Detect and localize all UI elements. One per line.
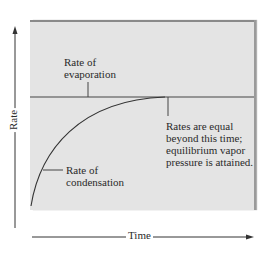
evaporation-label: Rate of evaporation (64, 56, 116, 80)
equilibrium-label-line3: equilibrium vapor (166, 144, 253, 156)
rate-axis-label: Rate (7, 108, 19, 132)
rate-axis-arrow-icon (13, 26, 18, 34)
condensation-rate-curve (31, 97, 165, 206)
equilibrium-label-line2: beyond this time; (166, 132, 253, 144)
condensation-label-line2: condensation (66, 176, 124, 188)
time-axis-arrow-icon (246, 235, 254, 240)
equilibrium-label-line1: Rates are equal (166, 120, 253, 132)
condensation-label-line1: Rate of (66, 164, 124, 176)
time-axis-label: Time (126, 229, 153, 241)
equilibrium-label-line4: pressure is attained. (166, 156, 253, 168)
evaporation-label-line1: Rate of (64, 56, 116, 68)
evaporation-label-line2: evaporation (64, 68, 116, 80)
equilibrium-label: Rates are equal beyond this time; equili… (166, 120, 253, 168)
condensation-label: Rate of condensation (66, 164, 124, 188)
